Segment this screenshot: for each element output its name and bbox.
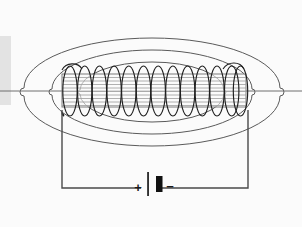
battery-plus-label: + bbox=[134, 180, 142, 195]
battery-positive-plate bbox=[147, 172, 149, 196]
figure-canvas: + − bbox=[0, 0, 302, 227]
figure-background bbox=[0, 0, 302, 227]
battery-minus-label: − bbox=[166, 179, 174, 194]
iron-core bbox=[62, 74, 246, 107]
left-gray-band bbox=[0, 36, 11, 105]
battery-negative-plate bbox=[156, 176, 163, 192]
